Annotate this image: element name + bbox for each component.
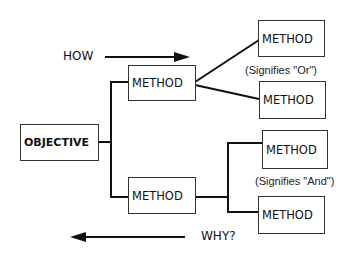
how-arrow <box>105 52 190 62</box>
method-box-or-bottom: METHOD <box>259 81 326 119</box>
or-note: (Signifies "Or") <box>245 64 317 76</box>
and-note: (Signifies "And") <box>255 175 334 187</box>
how-label: HOW <box>63 49 93 63</box>
why-label: WHY? <box>201 229 236 243</box>
why-arrow <box>70 232 185 242</box>
method-box-and-top: METHOD <box>262 130 328 169</box>
objective-box: OBJECTIVE <box>20 124 99 161</box>
method-label: METHOD <box>263 93 314 107</box>
method-box-level1-bottom: METHOD <box>128 177 196 214</box>
method-label: METHOD <box>132 189 183 203</box>
method-label: METHOD <box>262 208 313 222</box>
method-box-or-top: METHOD <box>258 20 325 57</box>
objective-label: OBJECTIVE <box>24 136 89 149</box>
method-label: METHOD <box>262 32 313 46</box>
method-label: METHOD <box>266 143 317 157</box>
method-box-and-bottom: METHOD <box>258 196 325 234</box>
method-label: METHOD <box>132 76 183 90</box>
method-box-level1-top: METHOD <box>128 65 196 101</box>
